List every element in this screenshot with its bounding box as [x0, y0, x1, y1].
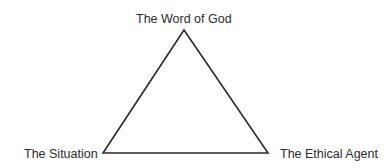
vertex-label-situation: The Situation: [24, 148, 98, 161]
vertex-label-ethical-agent: The Ethical Agent: [280, 148, 378, 161]
triangle-outline: [103, 30, 268, 153]
vertex-label-word-of-god: The Word of God: [136, 13, 232, 26]
triad-diagram: The Word of God The Situation The Ethica…: [0, 0, 390, 168]
